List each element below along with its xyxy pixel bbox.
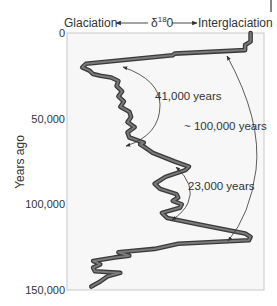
label-100k: ~ 100,000 years	[184, 120, 267, 132]
oxygen-isotope-chart: Glaciation δ180 Interglaciation 0 50,000…	[0, 0, 277, 306]
y-tick-0: 0	[59, 27, 65, 39]
label-41k: 41,000 years	[155, 90, 222, 102]
y-tick-100000: 100,000	[25, 198, 65, 210]
y-tick-150000: 150,000	[25, 284, 65, 296]
x-axis-header: Glaciation δ180 Interglaciation	[64, 15, 273, 30]
glaciation-label: Glaciation	[64, 16, 117, 30]
y-axis-ticks: 0 50,000 100,000 150,000	[25, 27, 65, 296]
plot-area	[67, 33, 264, 290]
label-23k: 23,000 years	[188, 180, 255, 192]
interglaciation-label: Interglaciation	[198, 16, 273, 30]
figure: Glaciation δ180 Interglaciation 0 50,000…	[0, 0, 277, 306]
delta-o18-label: δ180	[151, 15, 174, 30]
y-axis-label: Years ago	[13, 135, 27, 189]
y-tick-50000: 50,000	[31, 113, 65, 125]
